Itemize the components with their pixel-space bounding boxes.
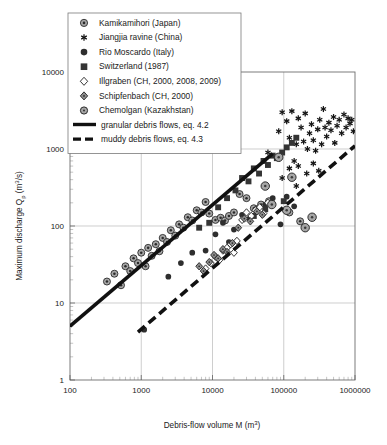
legend-label-5: Schipfenbach (CH, 2000)	[99, 91, 193, 101]
chart-legend: Kamikamihori (Japan)Jiangjia ravine (Chi…	[68, 13, 241, 153]
x-tick-label: 100000	[270, 386, 297, 395]
data-point	[288, 173, 296, 181]
data-point	[138, 249, 145, 256]
legend-marker-rio-moscardo-italy	[81, 49, 88, 56]
data-point	[196, 225, 202, 231]
data-point	[243, 195, 250, 202]
data-point	[220, 220, 226, 226]
legend-label-4: Illgraben (CH, 2000, 2008, 2009)	[99, 76, 221, 86]
data-point	[246, 178, 252, 184]
x-axis-label: Debris-flow volume M (m3)	[164, 420, 261, 430]
data-point	[275, 153, 283, 161]
data-point	[265, 162, 271, 168]
data-point	[289, 140, 295, 146]
data-point	[297, 218, 304, 225]
y-tick-label: 100	[51, 222, 65, 231]
data-point	[284, 144, 290, 150]
data-point	[165, 274, 171, 280]
data-point	[202, 198, 209, 205]
legend-label-3: Switzerland (1987)	[99, 61, 169, 71]
data-point	[268, 200, 276, 208]
y-tick-label: 10	[55, 299, 64, 308]
data-point	[178, 260, 184, 266]
x-tick-label: 1000000	[339, 386, 371, 395]
legend-marker-kamikamihori-japan	[80, 19, 87, 26]
data-point	[308, 213, 316, 221]
data-point	[213, 231, 219, 237]
x-tick-label: 10000	[201, 386, 224, 395]
data-point	[293, 135, 299, 141]
data-point	[111, 270, 118, 277]
legend-label-6: Chemolgan (Kazakhstan)	[99, 105, 194, 115]
data-point	[261, 182, 269, 190]
x-tick-label: 100	[63, 386, 77, 395]
data-point	[278, 222, 284, 228]
legend-marker-chemolgan-kazakhstan	[80, 107, 87, 114]
y-tick-label: 10000	[42, 68, 65, 77]
data-point	[230, 209, 237, 216]
data-point	[206, 220, 212, 226]
legend-line-label-0: granular debris flows, eq. 4.2	[101, 120, 209, 130]
data-point	[103, 278, 110, 285]
data-point	[145, 244, 152, 251]
y-tick-label: 1000	[46, 145, 64, 154]
y-tick-label: 1	[60, 376, 65, 385]
data-point	[203, 248, 209, 254]
legend-label-2: Rio Moscardo (Italy)	[99, 47, 174, 57]
data-point	[256, 171, 262, 177]
debris-flow-scatter-chart: 1001000100001000001000000110100100010000…	[0, 0, 387, 445]
data-point	[189, 250, 195, 256]
data-point	[291, 203, 297, 209]
legend-marker-switzerland-1987	[81, 63, 88, 70]
x-tick-label: 1000	[132, 386, 150, 395]
legend-label-0: Kamikamihori (Japan)	[99, 18, 181, 28]
legend-label-1: Jiangjia ravine (China)	[99, 32, 183, 42]
data-point	[152, 241, 159, 248]
data-point	[282, 206, 290, 214]
legend-line-label-1: muddy debris flows, eq. 4.3	[101, 134, 203, 144]
data-point	[301, 224, 309, 232]
figure-container: 1001000100001000001000000110100100010000…	[0, 0, 387, 445]
data-point	[215, 204, 221, 210]
